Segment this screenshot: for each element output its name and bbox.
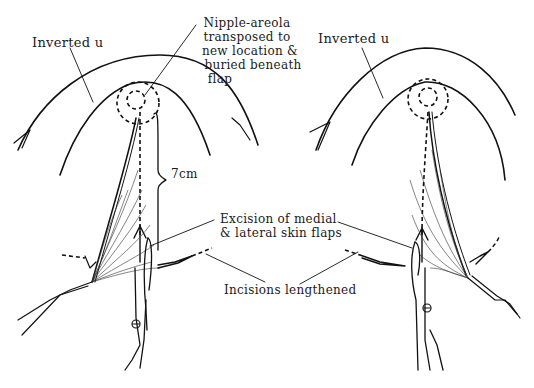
excision-line-1: Excision of medial [220,213,337,226]
right-panel-drawing [300,48,520,370]
left-inverted-u-label: Inverted u [32,36,104,49]
excision-line-2: & lateral skin flaps [220,227,342,240]
surgical-diagram: Inverted u 7cm Inverted u Nipple-areola … [0,0,534,388]
nipple-areola-line-1: Nipple-areola [192,17,302,30]
nipple-areola-line-3: new location & [195,45,305,58]
right-inverted-u-label: Inverted u [318,32,390,45]
nipple-areola-line-5: flap [195,73,245,86]
incisions-label: Incisions lengthened [224,284,356,297]
nipple-areola-line-4: buried beneath [198,59,308,72]
measurement-label: 7cm [171,168,198,181]
nipple-areola-line-2: transposed to [192,31,302,44]
